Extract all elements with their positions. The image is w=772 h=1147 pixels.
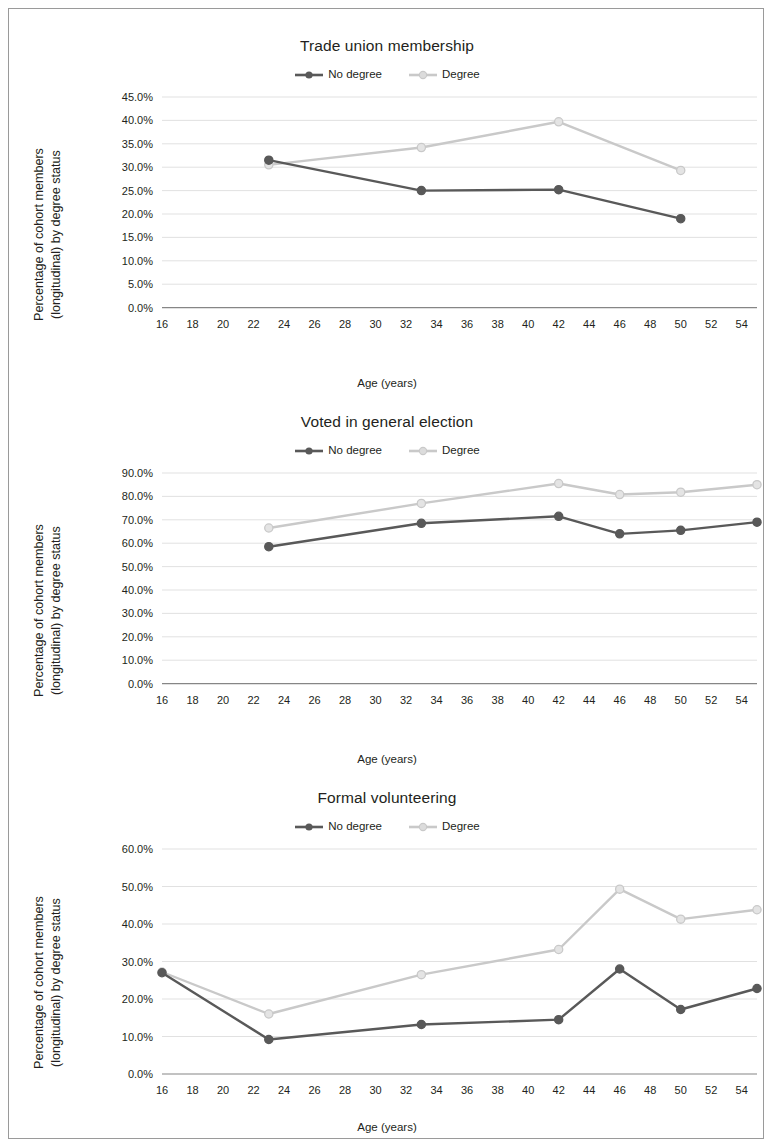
data-point bbox=[616, 490, 624, 498]
chart-panel-trade-union: Trade union membership No degree Degree … bbox=[9, 29, 764, 399]
series-no-degree bbox=[265, 512, 761, 551]
data-point bbox=[753, 481, 761, 489]
y-axis-tick-label: 0.0% bbox=[128, 302, 153, 314]
x-axis-tick-label: 26 bbox=[308, 694, 320, 706]
legend-item-no-degree[interactable]: No degree bbox=[294, 821, 382, 833]
y-gridlines bbox=[162, 97, 757, 308]
series-degree bbox=[158, 885, 761, 1018]
series-line bbox=[269, 122, 681, 171]
x-axis-tick-label: 54 bbox=[736, 1084, 748, 1096]
data-point bbox=[158, 969, 166, 977]
x-axis-tick-label: 48 bbox=[644, 318, 656, 330]
chart-plot-area: 0.0%10.0%20.0%30.0%40.0%50.0%60.0%70.0%8… bbox=[9, 467, 764, 767]
x-axis-title: Age (years) bbox=[9, 753, 764, 765]
x-axis-tick-label: 38 bbox=[492, 1084, 504, 1096]
x-axis-tick-label: 24 bbox=[278, 1084, 290, 1096]
data-point bbox=[677, 915, 685, 923]
legend-label-no-degree: No degree bbox=[328, 821, 382, 833]
y-gridlines bbox=[162, 849, 757, 1074]
chart-legend: No degree Degree bbox=[9, 69, 764, 81]
y-axis-tick-label: 30.0% bbox=[122, 607, 153, 619]
x-axis-tick-label: 30 bbox=[369, 318, 381, 330]
chart-plot-area: 0.0%5.0%10.0%15.0%20.0%25.0%30.0%35.0%40… bbox=[9, 91, 764, 391]
figure-frame: Trade union membership No degree Degree … bbox=[8, 8, 764, 1139]
data-point bbox=[555, 945, 563, 953]
y-axis-tick-label: 80.0% bbox=[122, 490, 153, 502]
x-axis-tick-label: 54 bbox=[736, 318, 748, 330]
data-point bbox=[616, 885, 624, 893]
legend-label-no-degree: No degree bbox=[328, 445, 382, 457]
y-axis-tick-label: 50.0% bbox=[122, 561, 153, 573]
x-axis-tick-label: 34 bbox=[430, 1084, 442, 1096]
y-axis-tick-label: 10.0% bbox=[122, 654, 153, 666]
x-axis-tick-label: 40 bbox=[522, 318, 534, 330]
x-axis-tick-label: 16 bbox=[156, 1084, 168, 1096]
x-axis-tick-label: 22 bbox=[247, 694, 259, 706]
legend-item-no-degree[interactable]: No degree bbox=[294, 445, 382, 457]
x-axis-tick-label: 32 bbox=[400, 318, 412, 330]
data-point bbox=[417, 143, 425, 151]
x-axis-tick-label: 20 bbox=[217, 318, 229, 330]
data-point bbox=[677, 488, 685, 496]
data-point bbox=[265, 156, 273, 164]
legend-label-degree: Degree bbox=[442, 445, 480, 457]
x-axis-tick-label: 50 bbox=[675, 318, 687, 330]
y-axis-tick-label: 40.0% bbox=[122, 584, 153, 596]
data-point bbox=[555, 512, 563, 520]
x-axis-tick-label: 18 bbox=[186, 318, 198, 330]
x-axis-tick-label: 28 bbox=[339, 1084, 351, 1096]
x-axis-tick-label: 38 bbox=[492, 318, 504, 330]
data-point bbox=[677, 1005, 685, 1013]
data-point bbox=[555, 118, 563, 126]
series-no-degree bbox=[158, 965, 761, 1044]
x-axis-tick-label: 32 bbox=[400, 1084, 412, 1096]
y-axis-tick-label: 40.0% bbox=[122, 114, 153, 126]
x-axis-title: Age (years) bbox=[9, 1121, 764, 1133]
series-line bbox=[269, 160, 681, 219]
y-axis-tick-label: 40.0% bbox=[122, 918, 153, 930]
y-axis-tick-label: 0.0% bbox=[128, 1068, 153, 1080]
legend-item-degree[interactable]: Degree bbox=[408, 445, 480, 457]
y-axis-tick-label: 50.0% bbox=[122, 881, 153, 893]
legend-item-no-degree[interactable]: No degree bbox=[294, 69, 382, 81]
y-axis-tick-label: 70.0% bbox=[122, 514, 153, 526]
data-point bbox=[417, 187, 425, 195]
x-axis-tick-label: 42 bbox=[553, 318, 565, 330]
y-axis-tick-label: 30.0% bbox=[122, 956, 153, 968]
x-axis-tick-label: 16 bbox=[156, 318, 168, 330]
y-axis-tick-label: 35.0% bbox=[122, 138, 153, 150]
legend-item-degree[interactable]: Degree bbox=[408, 821, 480, 833]
x-axis-tick-label: 22 bbox=[247, 1084, 259, 1096]
legend-marker-no-degree bbox=[294, 69, 324, 81]
y-axis-tick-label: 10.0% bbox=[122, 1031, 153, 1043]
x-axis-tick-label: 32 bbox=[400, 694, 412, 706]
x-axis-tick-label: 40 bbox=[522, 1084, 534, 1096]
x-axis-tick-label: 46 bbox=[614, 1084, 626, 1096]
x-axis-tick-label: 42 bbox=[553, 694, 565, 706]
data-point bbox=[616, 965, 624, 973]
series-line bbox=[162, 889, 757, 1014]
y-axis-tick-label: 0.0% bbox=[128, 678, 153, 690]
x-axis-tick-label: 44 bbox=[583, 1084, 595, 1096]
data-point bbox=[417, 971, 425, 979]
chart-title: Voted in general election bbox=[9, 413, 764, 431]
x-axis-tick-label: 48 bbox=[644, 1084, 656, 1096]
y-axis-tick-label: 45.0% bbox=[122, 91, 153, 103]
x-axis-tick-label: 36 bbox=[461, 318, 473, 330]
data-point bbox=[753, 984, 761, 992]
series-no-degree bbox=[265, 156, 685, 223]
y-gridlines bbox=[162, 473, 757, 684]
data-point bbox=[265, 1035, 273, 1043]
x-axis-tick-label: 36 bbox=[461, 694, 473, 706]
chart-legend: No degree Degree bbox=[9, 821, 764, 833]
x-axis-tick-label: 52 bbox=[705, 318, 717, 330]
chart-legend: No degree Degree bbox=[9, 445, 764, 457]
y-axis-tick-label: 30.0% bbox=[122, 161, 153, 173]
data-point bbox=[555, 186, 563, 194]
data-point bbox=[677, 526, 685, 534]
x-axis-tick-label: 18 bbox=[186, 694, 198, 706]
x-axis-tick-label: 22 bbox=[247, 318, 259, 330]
x-axis-tick-label: 54 bbox=[736, 694, 748, 706]
legend-item-degree[interactable]: Degree bbox=[408, 69, 480, 81]
data-point bbox=[417, 499, 425, 507]
